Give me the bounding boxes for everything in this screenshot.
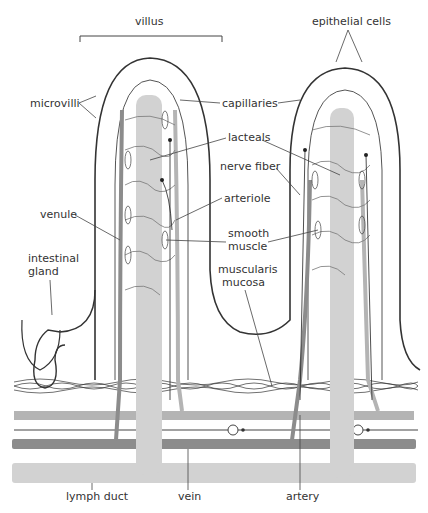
label-smooth-muscle-1: smooth bbox=[228, 227, 269, 240]
nerve-ganglion bbox=[228, 425, 238, 435]
label-lymph-duct: lymph duct bbox=[66, 490, 129, 503]
lymph-trunk-left bbox=[136, 460, 162, 470]
label-nerve-fiber: nerve fiber bbox=[220, 160, 281, 173]
lacteal-left bbox=[136, 95, 162, 475]
artery-right bbox=[362, 180, 378, 411]
intestinal-gland bbox=[22, 290, 95, 388]
label-smooth-muscle-2: muscle bbox=[228, 240, 268, 253]
lymph-duct-horizontal bbox=[12, 463, 416, 483]
label-venule: venule bbox=[40, 208, 77, 221]
muscularis-mucosa-band bbox=[14, 379, 418, 393]
villus-bracket bbox=[80, 36, 222, 42]
label-capillaries: capillaries bbox=[222, 97, 278, 110]
label-arteriole: arteriole bbox=[224, 192, 271, 205]
nerve-dot bbox=[241, 428, 245, 432]
label-artery: artery bbox=[286, 490, 320, 503]
arteriole-left bbox=[175, 110, 182, 411]
lymph-trunk-right bbox=[330, 460, 354, 470]
nerve-ending bbox=[168, 138, 172, 142]
label-lacteals: lacteals bbox=[228, 131, 271, 144]
label-villus: villus bbox=[135, 15, 164, 28]
lacteal-right bbox=[330, 108, 354, 478]
horizontal-vessels bbox=[12, 411, 418, 483]
nerve-dot bbox=[366, 428, 370, 432]
label-intestinal-gland-1: intestinal bbox=[28, 252, 79, 265]
label-intestinal-gland-2: gland bbox=[28, 265, 59, 278]
label-vein: vein bbox=[178, 490, 201, 503]
intestinal-villus-diagram: villus epithelial cells microvilli capil… bbox=[0, 0, 428, 513]
vein-horizontal bbox=[12, 439, 416, 449]
venule-left bbox=[116, 110, 122, 440]
label-epithelial-cells: epithelial cells bbox=[312, 15, 391, 28]
label-muscularis-mucosa-1: muscularis bbox=[218, 263, 278, 276]
label-muscularis-mucosa-2: mucosa bbox=[222, 276, 265, 289]
vein-right bbox=[292, 180, 310, 440]
label-microvilli: microvilli bbox=[30, 97, 80, 110]
nerve-ganglion bbox=[353, 425, 363, 435]
